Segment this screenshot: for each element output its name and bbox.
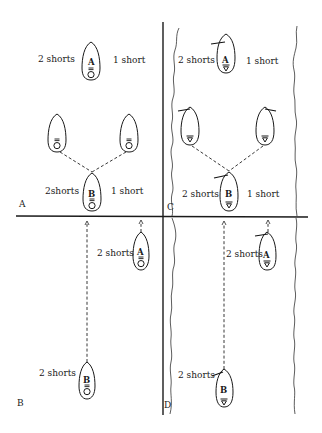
path-to-left xyxy=(192,146,229,171)
label-bottom-left: 2shorts xyxy=(45,186,79,196)
boat-label: A xyxy=(87,57,95,67)
boat-ghost-left xyxy=(48,114,66,152)
boat-label: A xyxy=(136,247,144,257)
label-bottom-right: 1 short xyxy=(111,186,144,196)
label-top-left: 2 shorts xyxy=(38,54,75,64)
label-top-right: 1 short xyxy=(246,56,279,66)
boat-b: B xyxy=(83,173,101,211)
signals-diagram: A 2 shorts 1 short B 2shorts 1 short A xyxy=(0,0,322,433)
boat-label: B xyxy=(220,385,227,395)
arrow-icon xyxy=(266,220,270,224)
label-boat-a: 2 shorts xyxy=(97,248,134,258)
panel-d: A 2 shorts B 2 shorts D xyxy=(164,218,297,414)
right-bank xyxy=(294,218,297,414)
boat-b: B xyxy=(212,369,233,407)
arrow-icon xyxy=(139,220,143,224)
boat-a: A xyxy=(211,34,235,73)
panel-label: A xyxy=(18,199,26,209)
boat-ghost-right xyxy=(256,107,276,145)
panel-b: A 2 shorts B 2 shorts B xyxy=(17,220,149,408)
label-boat-a: 2 shorts xyxy=(226,249,263,259)
boat-label: A xyxy=(221,55,229,65)
panel-a: A 2 shorts 1 short B 2shorts 1 short A xyxy=(18,42,146,211)
boat-label: B xyxy=(88,189,95,199)
path-to-right xyxy=(229,146,263,171)
label-boat-b: 2 shorts xyxy=(39,368,76,378)
label-top-left: 2 shorts xyxy=(178,55,215,65)
boat-ghost-left xyxy=(178,107,199,145)
boat-label: A xyxy=(262,250,270,260)
label-boat-b: 2 shorts xyxy=(178,370,215,380)
panel-label: C xyxy=(167,202,174,212)
label-bottom-right: 1 short xyxy=(247,189,280,199)
panel-c: A 2 shorts 1 short B 2 shorts 1 short C xyxy=(167,26,297,216)
panel-label: D xyxy=(164,400,171,410)
right-bank xyxy=(293,26,297,216)
path-to-left xyxy=(60,152,92,172)
boat-label: B xyxy=(225,189,232,199)
boat-b: B xyxy=(79,362,95,399)
boat-a: A xyxy=(133,232,149,270)
boat-a: A xyxy=(82,42,100,80)
boat-ghost-right xyxy=(120,114,138,152)
boat-label: B xyxy=(83,375,90,385)
panel-label: B xyxy=(17,398,24,408)
path-to-right xyxy=(92,152,126,172)
horizontal-divider xyxy=(16,216,308,217)
label-top-right: 1 short xyxy=(113,55,146,65)
arrow-icon xyxy=(222,221,226,225)
label-bottom-left: 2 shorts xyxy=(182,189,219,199)
left-bank xyxy=(170,218,176,414)
